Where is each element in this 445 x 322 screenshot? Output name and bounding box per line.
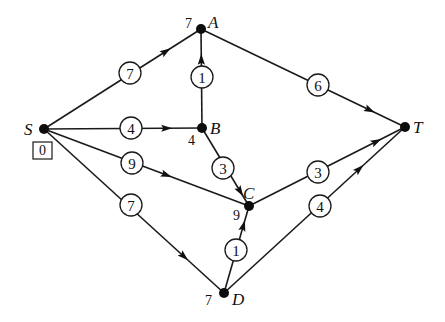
weight-value: 4 bbox=[127, 121, 135, 137]
node-a: A7 bbox=[185, 13, 219, 34]
edge-weight: 7 bbox=[119, 62, 141, 84]
edge-weight: 3 bbox=[307, 161, 329, 183]
node-dot bbox=[196, 24, 206, 34]
node-name: C bbox=[243, 184, 255, 203]
node-t: T bbox=[400, 118, 424, 137]
arrowhead-icon bbox=[370, 136, 383, 147]
edge-weight: 9 bbox=[121, 152, 143, 174]
weight-value: 6 bbox=[314, 78, 322, 94]
edge-weight: 6 bbox=[307, 74, 329, 96]
arrowhead-icon bbox=[363, 104, 376, 115]
weight-value: 7 bbox=[126, 66, 134, 82]
edge-weight: 4 bbox=[309, 195, 331, 217]
node-s: S0 bbox=[24, 120, 52, 159]
weight-value: 3 bbox=[314, 165, 322, 181]
edge-weight: 1 bbox=[225, 239, 247, 261]
node-d: D7 bbox=[205, 288, 245, 309]
node-distance: 7 bbox=[205, 293, 212, 308]
weight-value: 1 bbox=[232, 243, 240, 259]
weight-value: 3 bbox=[219, 161, 227, 177]
edge-weight: 7 bbox=[120, 194, 142, 216]
weight-value: 1 bbox=[198, 70, 206, 86]
node-distance: 0 bbox=[39, 143, 46, 158]
edge-weight: 1 bbox=[191, 66, 213, 88]
node-dot bbox=[197, 123, 207, 133]
node-name: A bbox=[207, 13, 219, 32]
node-distance: 7 bbox=[185, 16, 192, 31]
weight-value: 9 bbox=[128, 156, 136, 172]
node-name: T bbox=[413, 118, 424, 137]
weight-value: 4 bbox=[316, 199, 324, 215]
node-dot bbox=[39, 124, 49, 134]
node-distance: 9 bbox=[233, 208, 240, 223]
edge-a-t bbox=[201, 29, 405, 127]
arrowhead-icon bbox=[160, 170, 173, 181]
arrowhead-icon bbox=[159, 45, 172, 57]
node-name: B bbox=[210, 119, 221, 138]
node-dot bbox=[219, 288, 229, 298]
node-dot bbox=[400, 122, 410, 132]
edge-weights-layer: 7497136341 bbox=[119, 62, 331, 261]
node-distance: 4 bbox=[188, 133, 195, 148]
graph-canvas: 7497136341 S0A7B4C9D7T bbox=[0, 0, 445, 322]
node-name: D bbox=[231, 290, 245, 309]
edge-weight: 4 bbox=[120, 117, 142, 139]
node-name: S bbox=[24, 120, 33, 139]
edge-weight: 3 bbox=[212, 157, 234, 179]
weight-value: 7 bbox=[127, 198, 135, 214]
